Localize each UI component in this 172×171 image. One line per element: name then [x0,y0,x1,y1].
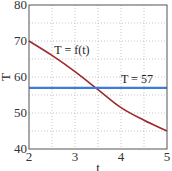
annotation-label: T = f(t) [54,43,89,57]
y-tick-label: 70 [14,33,27,48]
y-tick-label: 60 [14,69,27,84]
y-tick-label: 80 [14,0,27,12]
y-tick-label: 40 [14,141,27,156]
y-tick-label: 50 [14,105,27,120]
annotation-label: T = 57 [121,72,153,86]
x-axis-label: t [96,160,100,171]
x-tick-label: 5 [164,149,171,164]
annotations: T = f(t)T = 57 [54,43,153,87]
chart: 23454050607080 T = f(t)T = 57 t T [0,0,172,171]
y-axis-label: T [0,73,13,81]
x-tick-label: 4 [118,149,125,164]
x-tick-label: 3 [72,149,79,164]
